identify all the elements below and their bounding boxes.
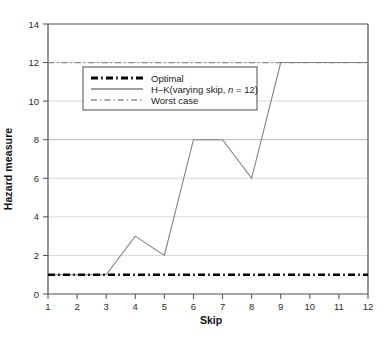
x-tick-labels: 1 2 3 4 5 6 7 8 9 10 11 12	[45, 301, 373, 312]
x-ticks	[48, 294, 368, 299]
legend-label-worst-case: Worst case	[151, 95, 198, 106]
y-tick-label-4: 4	[34, 211, 39, 222]
x-tick-label-9: 9	[278, 301, 283, 312]
y-tick-label-2: 2	[34, 250, 39, 261]
x-tick-label-11: 11	[334, 301, 344, 312]
x-tick-label-5: 5	[162, 301, 167, 312]
plot-area: 0 2 4 6 8 10 12 14 1 2 3	[0, 0, 389, 338]
y-tick-label-12: 12	[28, 57, 39, 68]
x-tick-label-7: 7	[220, 301, 225, 312]
x-tick-label-1: 1	[45, 301, 50, 312]
plot-background	[48, 24, 368, 294]
x-tick-label-12: 12	[363, 301, 374, 312]
x-tick-label-10: 10	[305, 301, 316, 312]
y-tick-label-14: 14	[28, 19, 39, 30]
x-tick-label-6: 6	[191, 301, 196, 312]
y-tick-label-6: 6	[34, 173, 39, 184]
y-tick-label-8: 8	[34, 134, 39, 145]
x-tick-label-4: 4	[133, 301, 138, 312]
legend[interactable]: Optimal H–K(varying skip, n = 12) Worst …	[83, 67, 258, 110]
y-tick-label-10: 10	[28, 96, 39, 107]
legend-label-optimal: Optimal	[151, 73, 184, 84]
y-ticks	[43, 24, 48, 294]
chart-figure: Hazard measure	[0, 0, 389, 338]
x-tick-label-2: 2	[74, 301, 79, 312]
legend-label-hk: H–K(varying skip, n = 12)	[151, 84, 258, 95]
x-tick-label-8: 8	[249, 301, 254, 312]
x-tick-label-3: 3	[104, 301, 109, 312]
x-axis-title: Skip	[46, 314, 376, 326]
y-tick-label-0: 0	[34, 289, 39, 300]
y-tick-labels: 0 2 4 6 8 10 12 14	[28, 19, 39, 300]
